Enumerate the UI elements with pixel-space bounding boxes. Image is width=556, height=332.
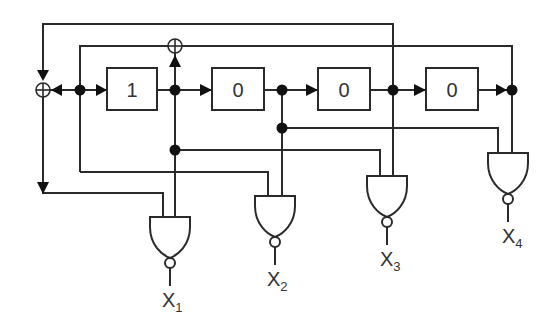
junction-node: [170, 145, 181, 156]
junction-node: [507, 85, 518, 96]
nand-gate-3-icon: [367, 176, 407, 245]
register-4-value: 0: [446, 79, 457, 101]
lfsr-diagram: 1 0 0 0: [0, 0, 556, 332]
junction-node: [277, 123, 288, 134]
nand-gate-4-icon: [488, 153, 528, 222]
output-label-x2: X2: [267, 268, 288, 294]
arrow-into-register-3-icon: [306, 84, 318, 96]
arrow-into-register-2-icon: [200, 84, 212, 96]
arrow-up-into-xor-tap-icon: [169, 55, 181, 67]
nand-gate-2-icon: [255, 196, 295, 265]
xor-feedback-icon: [36, 83, 50, 97]
arrow-down-into-xor-icon: [37, 70, 49, 81]
junction-node: [75, 85, 86, 96]
register-4: 0: [426, 68, 478, 110]
output-label-x3: X3: [380, 248, 401, 274]
arrow-into-register-1-icon: [96, 84, 107, 96]
xor-tap-icon: [168, 39, 182, 53]
junction-node: [277, 85, 288, 96]
register-2: 0: [212, 68, 264, 110]
register-3-value: 0: [338, 79, 349, 101]
output-label-x4: X4: [502, 225, 523, 251]
arrow-into-xor-feedback-icon: [51, 84, 62, 96]
register-1: 1: [107, 68, 157, 110]
output-label-x1: X1: [162, 289, 183, 315]
junction-node: [170, 85, 181, 96]
junction-node: [388, 85, 399, 96]
feedback-down-wire: [43, 97, 163, 217]
register-3: 0: [318, 68, 370, 110]
arrow-into-register-4-icon: [414, 84, 426, 96]
register-1-value: 1: [126, 79, 137, 101]
nand-gate-1-icon: [150, 217, 190, 286]
arrow-into-last-node-icon: [496, 84, 507, 96]
register-2-value: 0: [232, 79, 243, 101]
